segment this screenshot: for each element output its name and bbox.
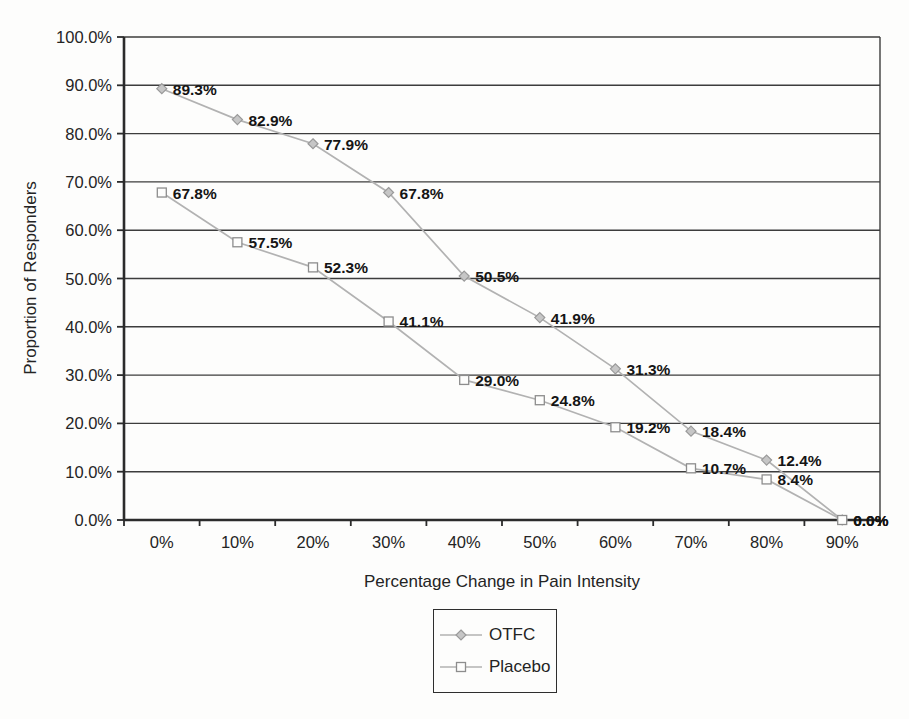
otfc-marker [308,139,318,149]
placebo-data-label: 57.5% [248,234,292,251]
placebo-data-label: 8.4% [778,471,814,488]
otfc-data-label: 41.9% [551,310,595,327]
otfc-data-label: 18.4% [702,423,746,440]
x-tick-label: 70% [674,533,707,551]
y-tick-label: 40.0% [65,318,112,336]
y-tick-label: 10.0% [65,463,112,481]
legend-label-placebo: Placebo [489,657,550,677]
placebo-marker [535,396,544,405]
otfc-data-label: 89.3% [173,81,217,98]
x-axis-title: Percentage Change in Pain Intensity [124,572,880,592]
placebo-series-marker-icon [439,660,483,674]
otfc-data-label: 12.4% [778,452,822,469]
placebo-data-label: 41.1% [400,313,444,330]
placebo-marker [460,375,469,384]
x-tick-label: 40% [448,533,481,551]
placebo-data-label: 52.3% [324,259,368,276]
otfc-data-label: 77.9% [324,136,368,153]
x-tick-label: 20% [296,533,329,551]
legend: OTFC Placebo [433,609,557,693]
placebo-marker [838,516,847,525]
placebo-data-label: 19.2% [626,419,670,436]
placebo-data-label: 24.8% [551,392,595,409]
y-tick-label: 20.0% [65,414,112,432]
otfc-data-label: 67.8% [400,185,444,202]
y-tick-label: 30.0% [65,366,112,384]
x-tick-label: 60% [599,533,632,551]
chart-figure: 100.0%90.0%80.0%70.0%60.0%50.0%40.0%30.0… [0,0,909,719]
placebo-marker [611,423,620,432]
placebo-marker [157,188,166,197]
x-tick-label: 10% [221,533,254,551]
otfc-series-line [162,89,842,520]
x-tick-label: 50% [523,533,556,551]
legend-label-otfc: OTFC [489,625,535,645]
y-tick-label: 70.0% [65,173,112,191]
placebo-data-label: 10.7% [702,460,746,477]
y-tick-label: 80.0% [65,125,112,143]
x-tick-label: 80% [750,533,783,551]
y-tick-label: 0.0% [74,511,112,529]
y-tick-label: 100.0% [56,28,112,46]
otfc-marker [535,313,545,323]
placebo-data-label: 0.0% [853,512,889,529]
otfc-marker [232,115,242,125]
y-tick-label: 90.0% [65,76,112,94]
otfc-series-marker-icon [439,628,483,642]
legend-item-otfc: OTFC [439,625,556,645]
y-tick-label: 60.0% [65,221,112,239]
legend-item-placebo: Placebo [439,657,556,677]
otfc-data-label: 50.5% [475,268,519,285]
y-tick-label: 50.0% [65,270,112,288]
placebo-marker [233,238,242,247]
x-tick-label: 90% [826,533,859,551]
x-tick-label: 30% [372,533,405,551]
placebo-marker [687,464,696,473]
x-tick-label: 0% [150,533,174,551]
otfc-data-label: 82.9% [248,112,292,129]
placebo-marker [309,263,318,272]
y-axis-title: Proportion of Responders [21,181,41,375]
otfc-data-label: 31.3% [626,361,670,378]
placebo-marker [762,475,771,484]
placebo-marker [384,317,393,326]
placebo-data-label: 67.8% [173,185,217,202]
placebo-data-label: 29.0% [475,372,519,389]
